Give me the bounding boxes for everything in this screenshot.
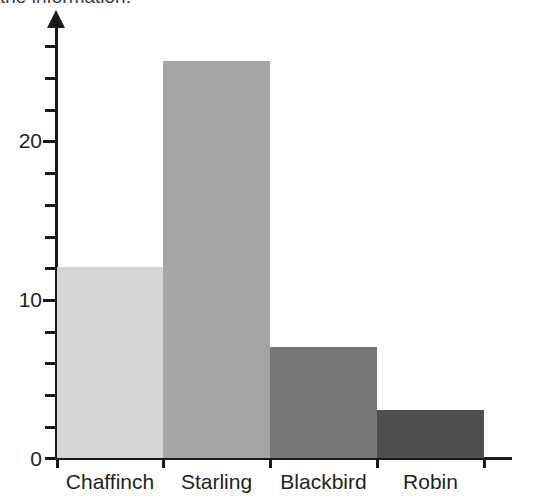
bar-chart-figure: the information. 0 10 20 — [0, 0, 534, 502]
x-axis-label-blackbird: Blackbird — [270, 470, 377, 494]
x-axis-label-chaffinch: Chaffinch — [57, 470, 163, 494]
bar-robin — [377, 410, 484, 458]
bar-chaffinch — [57, 267, 163, 458]
bar-blackbird — [270, 347, 377, 458]
bar-series — [0, 0, 534, 502]
x-axis-label-starling: Starling — [163, 470, 270, 494]
x-axis-label-robin: Robin — [377, 470, 484, 494]
plot-area: 0 10 20 Chaffinch Starling Blackbird Rob… — [0, 0, 534, 502]
bar-starling — [163, 61, 270, 459]
